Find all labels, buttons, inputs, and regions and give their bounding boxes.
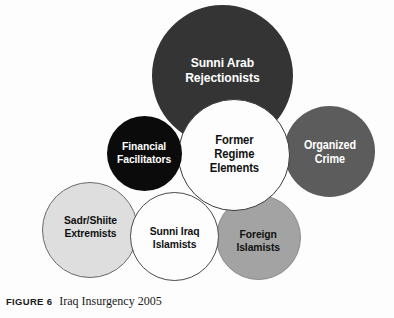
bubble-label-sadr-shiite-extremists: Sadr/Shiite Extremists bbox=[63, 214, 116, 240]
bubble-organized-crime[interactable]: Organized Crime bbox=[284, 106, 375, 197]
bubble-label-foreign-islamists: Foreign Islamists bbox=[237, 228, 280, 254]
bubble-label-former-regime-elements: Former Regime Elements bbox=[209, 133, 258, 175]
bubble-label-organized-crime: Organized Crime bbox=[303, 139, 355, 166]
bubble-former-regime-elements[interactable]: Former Regime Elements bbox=[178, 99, 290, 211]
bubble-sadr-shiite-extremists[interactable]: Sadr/Shiite Extremists bbox=[42, 182, 138, 278]
figure-caption: FIGURE 6 Iraq Insurgency 2005 bbox=[6, 294, 162, 309]
insurgency-bubble-diagram: Sunni Arab Rejectionists Organized Crime… bbox=[0, 0, 394, 288]
figure-container: Sunni Arab Rejectionists Organized Crime… bbox=[0, 0, 394, 318]
bubble-label-financial-facilitators: Financial Facilitators bbox=[117, 140, 171, 166]
figure-title-text: Iraq Insurgency 2005 bbox=[59, 294, 161, 309]
bubble-label-sunni-arab-rejectionists: Sunni Arab Rejectionists bbox=[185, 55, 259, 85]
figure-number-label: FIGURE 6 bbox=[6, 296, 52, 307]
bubble-financial-facilitators[interactable]: Financial Facilitators bbox=[107, 116, 182, 191]
bubble-sunni-iraq-islamists[interactable]: Sunni Iraq Islamists bbox=[130, 192, 219, 281]
bubble-label-sunni-iraq-islamists: Sunni Iraq Islamists bbox=[150, 225, 200, 251]
